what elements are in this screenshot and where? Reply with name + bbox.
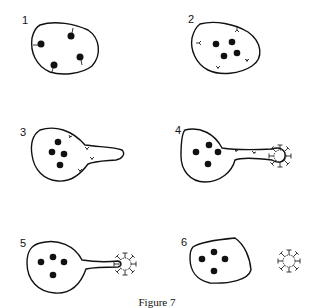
panel-2-label: 2 [188,13,194,25]
panel-4-label: 4 [175,124,181,136]
panel-1-label: 1 [22,14,28,26]
panel-3 [31,128,123,181]
panel-3-label: 3 [20,126,26,138]
panel-5 [27,242,136,294]
panel-6 [190,238,300,283]
panel-6-label: 6 [181,236,187,248]
panel-4 [181,129,291,182]
panel-1 [32,23,99,74]
panel-2 [192,22,260,73]
figure-caption: Figure 7 [0,296,314,308]
panel-5-label: 5 [20,237,26,249]
